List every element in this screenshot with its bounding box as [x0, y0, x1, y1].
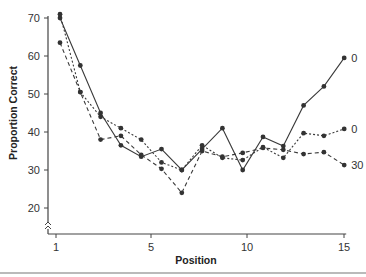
y-tick-label: 70 — [28, 12, 40, 24]
x-tick-label: 15 — [338, 241, 350, 253]
series-end-label-0: 0 — [351, 52, 357, 64]
data-point — [261, 146, 266, 151]
x-tick-label: 10 — [241, 241, 253, 253]
series-end-label-1: 0 — [351, 123, 357, 135]
line-chart: 203040506070151015PositionProportion Cor… — [0, 0, 366, 277]
data-point — [119, 126, 124, 131]
data-point — [119, 133, 124, 138]
y-tick-label: 40 — [28, 126, 40, 138]
axes: 203040506070151015PositionProportion Cor… — [7, 12, 350, 266]
data-point — [301, 152, 306, 157]
data-point — [119, 143, 124, 148]
y-tick-label: 50 — [28, 88, 40, 100]
data-point — [159, 166, 164, 171]
data-point — [58, 12, 63, 17]
data-point — [342, 127, 347, 132]
y-tick-label: 20 — [28, 202, 40, 214]
data-point — [240, 158, 245, 163]
data-point — [78, 90, 83, 95]
y-axis-title: Proportion Correct — [7, 66, 19, 160]
data-point — [301, 131, 306, 136]
data-point — [98, 114, 103, 119]
data-point — [200, 143, 205, 148]
data-point — [220, 154, 225, 159]
data-point — [98, 137, 103, 142]
data-point — [261, 135, 266, 140]
series-end-label-2: 30 — [351, 159, 363, 171]
axis-break-icon — [45, 222, 51, 229]
data-point — [281, 155, 286, 160]
data-point — [179, 168, 184, 173]
data-point — [179, 190, 184, 195]
data-point — [281, 147, 286, 152]
data-point — [139, 137, 144, 142]
x-tick-label: 1 — [53, 241, 59, 253]
data-point — [139, 152, 144, 157]
data-point — [159, 147, 164, 152]
data-point — [200, 149, 205, 154]
data-point — [240, 151, 245, 156]
data-point — [342, 163, 347, 168]
y-tick-label: 60 — [28, 50, 40, 62]
data-point — [322, 133, 327, 138]
y-tick-label: 30 — [28, 164, 40, 176]
series-group — [58, 12, 347, 195]
data-point — [322, 84, 327, 89]
data-point — [78, 63, 83, 68]
labels-group: 0030 — [351, 52, 363, 171]
x-axis-title: Position — [175, 254, 216, 266]
data-point — [58, 40, 63, 45]
data-point — [301, 103, 306, 108]
data-point — [322, 150, 327, 155]
data-point — [159, 160, 164, 165]
x-tick-label: 5 — [148, 241, 154, 253]
data-point — [240, 168, 245, 173]
data-point — [342, 56, 347, 61]
data-point — [220, 126, 225, 131]
